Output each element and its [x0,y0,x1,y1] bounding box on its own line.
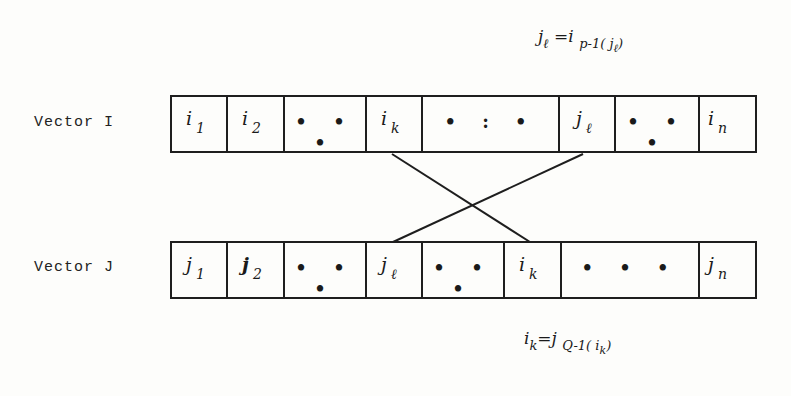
formula-subscript: Q-1 [562,338,586,353]
formula-term: j [552,328,557,348]
paren-open: ( [586,338,591,353]
vector-j-ellipsis: • • • [421,241,503,299]
vector-j-cell-jl: jℓ [365,241,421,299]
vector-j-cell: j2 [226,241,283,299]
vector-j-cell: jn [698,241,757,299]
cell-base: j [708,253,714,275]
cell-subscript: ℓ [391,266,397,282]
paren-close: ) [606,338,611,353]
cell-base: j [242,253,249,275]
ellipsis: • • • [562,257,698,278]
cell-base: i [519,253,525,275]
vector-j: j1 j2 • • • jℓ • • • ik • • • jn [172,241,755,299]
ellipsis: • • • [285,257,365,299]
ellipsis: • • • [423,257,503,299]
cell-subscript: 1 [196,266,205,282]
crossing-arrows [0,0,791,396]
vector-j-ellipsis: • • • [560,241,698,299]
vector-j-label: Vector J [34,259,114,276]
vector-j-cell-ik: ik [503,241,560,299]
vector-j-cell: j1 [170,241,226,299]
formula-equals: = [537,328,551,348]
cell-subscript: 2 [253,266,262,282]
line-jl [393,154,583,242]
line-ik [392,154,530,242]
formula-arg: ( ik) [586,338,611,353]
formula-bottom: ik=j Q-1( ik) [524,328,611,348]
formula-subscript: k [529,338,537,353]
arg-subscript: k [599,344,606,357]
vector-j-ellipsis: • • • [283,241,365,299]
cell-base: j [381,253,387,275]
cell-subscript: n [718,266,727,282]
cell-base: j [186,253,192,275]
cell-subscript: k [529,266,537,282]
